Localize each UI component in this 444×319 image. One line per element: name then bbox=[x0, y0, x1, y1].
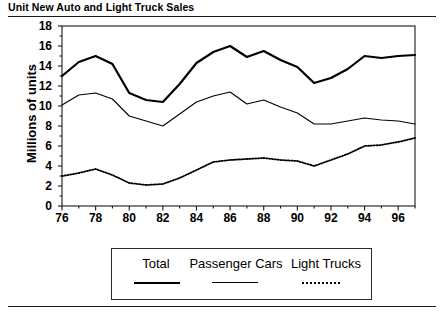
legend-labels: TotalPassenger CarsLight Trucks bbox=[112, 256, 371, 274]
plot-canvas bbox=[0, 20, 444, 220]
legend-label-light-trucks: Light Trucks bbox=[256, 256, 396, 271]
chart-legend: TotalPassenger CarsLight Trucks bbox=[111, 248, 372, 300]
series-line-light-trucks bbox=[62, 138, 415, 185]
legend-sample-passenger-cars bbox=[212, 282, 258, 287]
chart-title: Unit New Auto and Light Truck Sales bbox=[8, 1, 194, 13]
series-line-total bbox=[62, 46, 415, 102]
plot-area: Millions of units 024681012141618 767880… bbox=[0, 20, 444, 220]
legend-sample-light-trucks bbox=[302, 282, 340, 288]
footer-divider-bottom bbox=[8, 306, 436, 307]
legend-sample-total bbox=[134, 282, 180, 288]
series-line-passenger-cars bbox=[62, 92, 415, 126]
chart-figure: Unit New Auto and Light Truck Sales Mill… bbox=[0, 0, 444, 319]
title-divider-top bbox=[8, 16, 436, 17]
